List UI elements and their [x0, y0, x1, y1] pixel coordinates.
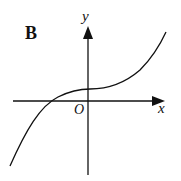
x-axis-label: x — [158, 100, 165, 117]
y-axis-arrow-icon — [83, 26, 93, 39]
panel-label: B — [25, 23, 37, 44]
graph-panel: B y x O — [0, 0, 181, 181]
y-axis-label: y — [82, 8, 89, 25]
origin-label: O — [74, 102, 84, 118]
